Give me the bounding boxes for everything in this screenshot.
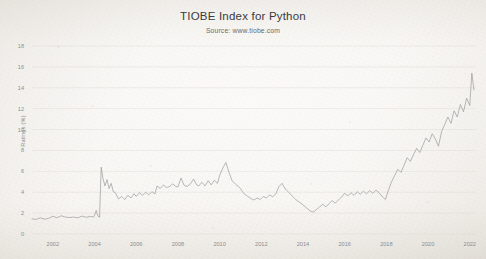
y-tick-label: 10 [18, 127, 24, 133]
python-ratings-line [32, 73, 474, 219]
plot-canvas: 024681012141618 200220042006200820102012… [0, 0, 486, 259]
x-axis-tick-labels: 2002200420062008201020122014201620182020… [47, 241, 476, 247]
x-tick-label: 2016 [338, 241, 350, 247]
x-tick-label: 2020 [422, 241, 434, 247]
y-tick-label: 2 [21, 210, 24, 216]
x-tick-label: 2010 [213, 241, 225, 247]
x-tick-label: 2022 [464, 241, 476, 247]
y-tick-label: 12 [18, 106, 24, 112]
gridlines-group [32, 46, 476, 234]
x-tick-label: 2012 [255, 241, 267, 247]
x-tick-label: 2014 [297, 241, 309, 247]
x-tick-label: 2004 [88, 241, 100, 247]
y-tick-label: 18 [18, 43, 24, 49]
tiobe-python-line-chart: TIOBE Index for Python Source: www.tiobe… [0, 0, 486, 259]
y-tick-label: 6 [21, 168, 24, 174]
y-axis-tick-labels: 024681012141618 [18, 43, 24, 237]
y-tick-label: 14 [18, 85, 24, 91]
x-tick-label: 2018 [380, 241, 392, 247]
y-tick-label: 16 [18, 64, 24, 70]
x-tick-label: 2008 [172, 241, 184, 247]
y-tick-label: 0 [21, 231, 24, 237]
x-tick-label: 2002 [47, 241, 59, 247]
y-tick-label: 8 [21, 147, 24, 153]
x-tick-label: 2006 [130, 241, 142, 247]
y-tick-label: 4 [21, 189, 24, 195]
